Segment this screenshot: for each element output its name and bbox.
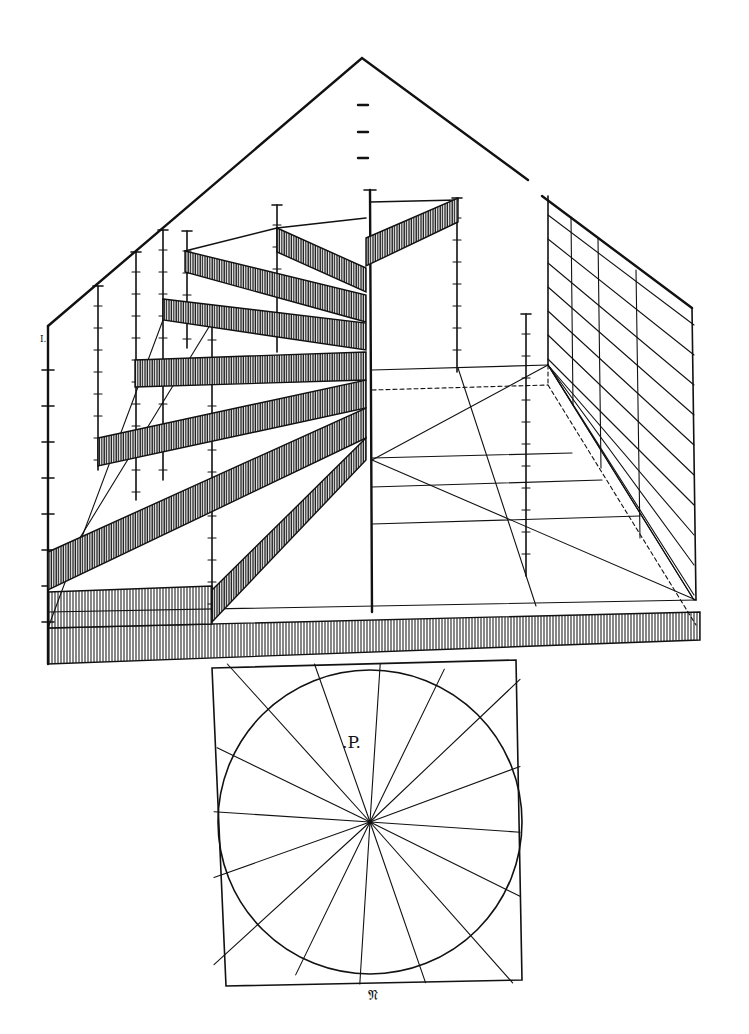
plan-spoke — [217, 748, 370, 822]
plan-spoke — [214, 822, 370, 965]
plan-spoke — [370, 822, 520, 896]
tread-edge — [185, 228, 277, 251]
floor-line — [372, 480, 602, 487]
staircase-perspective-plate: I. .P. 𝔑 — [0, 0, 749, 1034]
bottom-step — [48, 586, 212, 628]
top-landing-line — [370, 200, 458, 202]
signature-mark: 𝔑 — [368, 987, 378, 1003]
plan-spoke — [360, 822, 370, 984]
right-wall-diagonal — [548, 215, 694, 325]
plan-label-p: .P. — [342, 732, 361, 752]
floor-dashed-diagonal — [548, 385, 696, 625]
corner-mark: I. — [40, 334, 47, 344]
floor-back-line — [372, 365, 548, 370]
floor-diagonal — [458, 368, 536, 606]
stair-tread — [366, 198, 458, 266]
floor-dashed-line — [372, 385, 548, 390]
ground-plan — [212, 660, 522, 986]
right-wall-diagonal — [548, 263, 694, 385]
stair-tread — [135, 352, 366, 387]
plan-spoke — [370, 822, 513, 983]
floor-diagonal — [372, 365, 548, 460]
plan-centre-point — [368, 820, 373, 825]
plan-spoke — [370, 679, 520, 822]
floor-line — [372, 516, 640, 524]
floor-line — [372, 453, 572, 458]
right-wall-far-edge — [692, 308, 696, 600]
right-wall-diagonal — [548, 365, 694, 535]
plan-spoke — [370, 664, 380, 822]
right-wall-diagonal — [548, 311, 694, 445]
plan-spoke — [370, 822, 520, 832]
right-wall-diagonal — [548, 365, 694, 565]
right-wall-vertical — [571, 217, 573, 405]
tread-edge — [277, 218, 366, 228]
stair-elevation — [42, 58, 700, 664]
plan-spoke — [214, 812, 370, 822]
plan-spoke — [370, 822, 426, 983]
right-wall-diagonal — [548, 335, 694, 475]
